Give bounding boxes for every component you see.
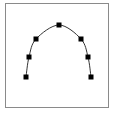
control-point bbox=[34, 37, 39, 42]
control-point bbox=[79, 37, 84, 42]
control-point bbox=[24, 75, 29, 80]
control-point bbox=[86, 55, 91, 60]
control-point bbox=[57, 23, 62, 28]
arc-diagram bbox=[0, 0, 113, 114]
arc-curve bbox=[26, 25, 91, 77]
control-point bbox=[27, 55, 32, 60]
control-points bbox=[24, 23, 94, 80]
control-point bbox=[89, 75, 94, 80]
